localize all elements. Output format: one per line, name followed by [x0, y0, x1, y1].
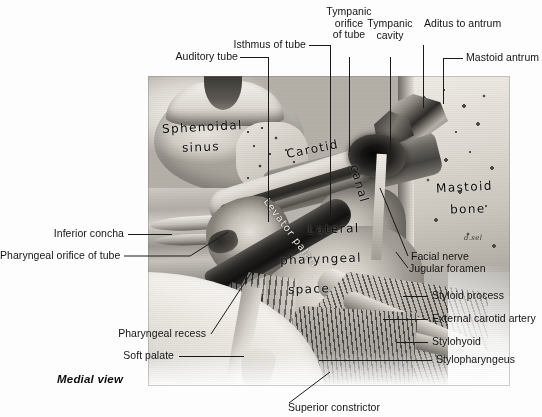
label-pharyngeal-recess: Pharyngeal recess [70, 328, 206, 340]
label-aditus-to-antrum: Aditus to antrum [424, 18, 501, 30]
label-tympanic-cavity: Tympanic cavity [358, 18, 422, 41]
plate-annotation-bone: bone [450, 201, 486, 216]
plate-annotation-sphenoidal-sinus-line2: sinus [182, 139, 221, 154]
label-external-carotid-artery: External carotid artery [432, 313, 536, 325]
figure-caption-medial-view: Medial view [57, 373, 123, 385]
label-soft-palate: Soft palate [106, 350, 174, 362]
label-stylohyoid: Stylohyoid [432, 336, 481, 348]
label-tympanic-cavity-line2: cavity [358, 30, 422, 42]
label-mastoid-antrum: Mastoid antrum [466, 52, 539, 64]
label-superior-constrictor: Superior constrictor [288, 402, 380, 414]
label-tympanic-cavity-line1: Tympanic [358, 18, 422, 30]
label-jugular-foramen: Jugular foramen [409, 263, 486, 275]
plate-annotation-space: space [288, 281, 331, 296]
plate-annotation-mastoid: Mastoid [436, 179, 493, 196]
label-isthmus-of-tube: Isthmus of tube [180, 39, 306, 51]
artist-signature: d.sel [464, 234, 482, 242]
label-pharyngeal-orifice-of-tube: Pharyngeal orifice of tube [0, 250, 120, 262]
plate-annotation-pharyngeal: pharyngeal [280, 251, 362, 268]
plate-annotation-lateral: Lateral [308, 221, 360, 237]
anatomy-figure-page: Sphenoidal sinus Carotid canal Levator p… [0, 0, 542, 417]
label-tympanic-orifice-of-tube-line1: Tympanic [318, 6, 380, 18]
label-styloid-process: Styloid process [432, 290, 504, 302]
label-inferior-concha: Inferior concha [0, 228, 124, 240]
label-facial-nerve: Facial nerve [411, 251, 469, 263]
label-auditory-tube: Auditory tube [110, 51, 238, 63]
label-stylopharyngeus: Stylopharyngeus [436, 354, 515, 366]
